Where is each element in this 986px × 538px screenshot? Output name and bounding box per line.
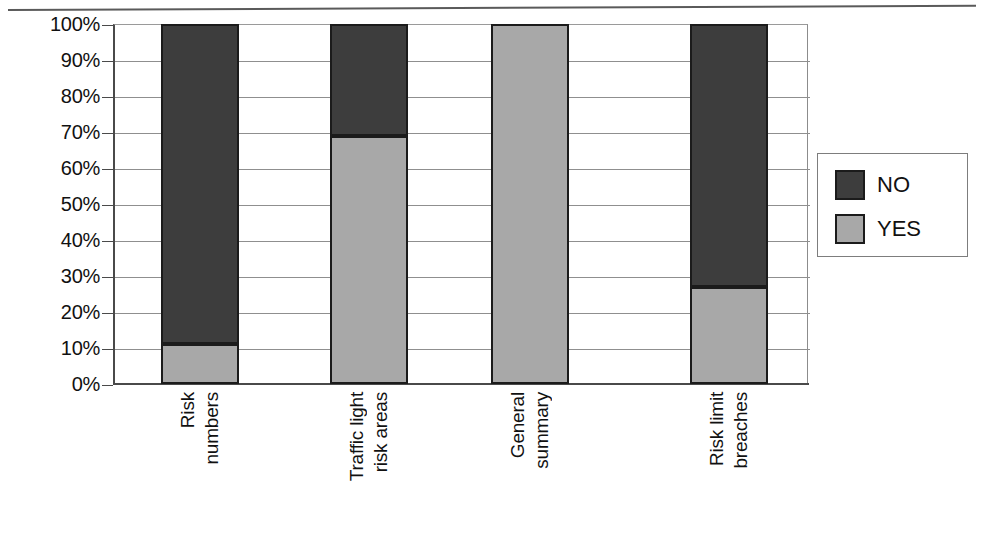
y-axis-tick xyxy=(102,241,113,242)
y-axis-tick xyxy=(102,313,113,314)
bar-segment-yes xyxy=(690,287,768,384)
y-axis-tick-label: 50% xyxy=(30,194,100,214)
legend-label: YES xyxy=(877,218,921,240)
legend-item-no[interactable]: NO xyxy=(835,170,910,200)
y-axis-tick-label: 40% xyxy=(30,230,100,250)
scan-artifact-ghost-text xyxy=(470,0,510,8)
x-axis-label-1: Risknumbers xyxy=(125,392,275,456)
bar-segment-no xyxy=(330,24,408,136)
y-axis-tick-label: 30% xyxy=(30,266,100,286)
y-axis-tick-label: 10% xyxy=(30,338,100,358)
x-axis-label-line: numbers xyxy=(201,392,223,465)
x-axis-label-line: summary xyxy=(531,392,553,469)
y-axis-tick-label: 80% xyxy=(30,86,100,106)
y-axis-tick xyxy=(102,349,113,350)
x-axis-label-line: Traffic light xyxy=(346,392,368,481)
bar-2 xyxy=(330,24,408,384)
y-axis-tick xyxy=(102,385,113,386)
bar-segment-yes xyxy=(161,344,239,384)
y-axis-tick-label: 20% xyxy=(30,302,100,322)
bar-segment-yes xyxy=(330,136,408,384)
legend-label: NO xyxy=(877,174,910,196)
y-axis-tick xyxy=(102,205,113,206)
chart-legend: NOYES xyxy=(817,153,968,257)
x-axis-label-3: Generalsummary xyxy=(455,392,605,456)
x-axis-label-line: breaches xyxy=(730,392,752,469)
bar-segment-yes xyxy=(491,24,569,384)
y-axis-tick xyxy=(102,61,113,62)
y-axis-tick-label: 70% xyxy=(30,122,100,142)
bar-3 xyxy=(491,24,569,384)
y-axis-tick xyxy=(102,133,113,134)
bar-segment-no xyxy=(690,24,768,287)
x-axis-label-line: Risk limit xyxy=(706,392,728,466)
y-axis-tick-label: 60% xyxy=(30,158,100,178)
y-axis-tick xyxy=(102,25,113,26)
x-axis-label-line: risk areas xyxy=(370,392,392,472)
y-axis-tick-label: 0% xyxy=(30,374,100,394)
legend-item-yes[interactable]: YES xyxy=(835,214,921,244)
stacked-bar-chart: 100%90%80%70%60%50%40%30%20%10%0% Risknu… xyxy=(0,0,986,538)
x-axis-label-line: Risk xyxy=(177,392,199,428)
y-axis-tick xyxy=(102,169,113,170)
x-axis-label-line: General xyxy=(507,392,529,458)
no-swatch-icon xyxy=(835,170,865,200)
y-axis-tick xyxy=(102,97,113,98)
y-axis-labels: 100%90%80%70%60%50%40%30%20%10%0% xyxy=(24,0,100,538)
bar-4 xyxy=(690,24,768,384)
y-axis-tick xyxy=(102,277,113,278)
y-axis-tick-label: 90% xyxy=(30,50,100,70)
x-axis-label-4: Risk limitbreaches xyxy=(654,392,804,456)
x-axis-label-2: Traffic lightrisk areas xyxy=(294,392,444,456)
bar-1 xyxy=(161,24,239,384)
y-axis-tick-label: 100% xyxy=(30,14,100,34)
yes-swatch-icon xyxy=(835,214,865,244)
bar-segment-no xyxy=(161,24,239,344)
